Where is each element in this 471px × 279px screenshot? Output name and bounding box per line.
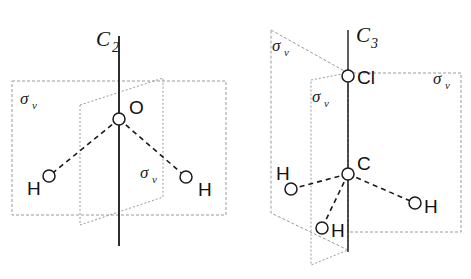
sigma-v-label-back-left-chloromethane: σ [272,36,281,55]
atom-hydrogen-right-water [180,171,192,183]
atom-label-hydrogen-front-chloromethane: H [331,220,345,241]
c3-axis-label: C [356,23,371,47]
atom-hydrogen-left-chloromethane [285,183,297,195]
atom-oxygen [113,113,125,125]
sigma-v-subscript-back-left-chloromethane: v [284,46,289,58]
atom-hydrogen-front-chloromethane [316,222,328,234]
sigma-v-subscript-front-left-chloromethane: v [324,97,329,109]
atom-hydrogen-left-water [43,170,55,182]
atom-carbon [342,168,354,180]
sigma-v-subscript-perpendicular-water: v [152,173,157,185]
sigma-v-label-molecular-water: σ [20,89,29,108]
molecule-water: C 2 O H H σ v σ v [12,27,226,246]
atom-label-hydrogen-right-chloromethane: H [424,196,438,217]
atom-label-chlorine: Cl [357,67,375,88]
molecule-chloromethane: C 3 Cl C H H H σ v σ v σ v [271,23,461,265]
c3-axis-subscript: 3 [370,36,378,51]
atom-label-carbon: C [357,153,371,174]
atom-hydrogen-right-chloromethane [409,197,421,209]
atom-label-hydrogen-left-chloromethane: H [276,163,290,184]
atom-label-hydrogen-left-water: H [27,178,41,199]
c2-axis-subscript: 2 [112,40,119,55]
c2-axis-label: C [96,27,111,51]
bond-c-h-right [348,174,415,203]
symmetry-figure: C 2 O H H σ v σ v [0,0,471,279]
mirror-plane-perpendicular-water [80,78,163,225]
atom-label-oxygen: O [129,97,144,118]
bond-o-h-left [49,119,119,176]
sigma-v-label-right-chloromethane: σ [433,69,442,88]
sigma-v-subscript-right-chloromethane: v [445,79,450,91]
bond-c-h-left [291,174,348,189]
bond-o-h-right [119,119,186,177]
sigma-v-label-perpendicular-water: σ [140,163,149,182]
sigma-v-subscript-molecular-water: v [32,99,37,111]
sigma-v-label-front-left-chloromethane: σ [312,87,321,106]
diagram-canvas: C 2 O H H σ v σ v [0,0,471,279]
atom-label-hydrogen-right-water: H [198,179,212,200]
mirror-plane-back-left-chloromethane [271,30,348,250]
atom-chlorine [342,70,354,82]
